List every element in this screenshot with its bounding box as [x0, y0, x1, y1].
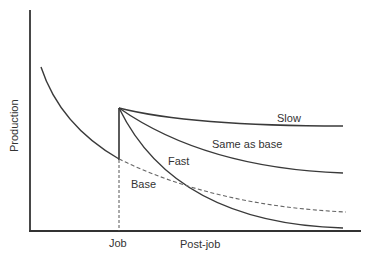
production-decline-chart: Production Job Post-job Slow Same as bas…	[0, 0, 377, 263]
base-label: Base	[131, 178, 156, 190]
fast-label: Fast	[168, 155, 189, 167]
y-axis-label: Production	[8, 99, 20, 152]
slow-label: Slow	[277, 112, 301, 124]
pre-job-decline-curve	[41, 67, 119, 159]
same-as-base-label: Same as base	[212, 138, 282, 150]
x-axis-label: Post-job	[180, 238, 220, 250]
job-tick-label: Job	[109, 237, 127, 249]
chart-svg: Production Job Post-job Slow Same as bas…	[0, 0, 377, 263]
slow-curve	[119, 108, 343, 126]
